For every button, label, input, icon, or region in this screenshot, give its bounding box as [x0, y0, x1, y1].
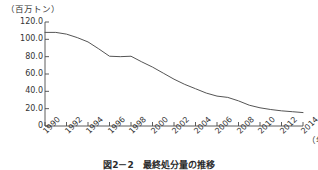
x-tick-label: 2006	[214, 116, 234, 136]
chart-figure: （百万トン） 020.040.060.080.0100.0120.0 19901…	[0, 0, 318, 170]
x-tick-label: 1992	[64, 116, 84, 136]
x-tick-label: 2012	[279, 116, 299, 136]
x-tick-label: 2008	[236, 116, 256, 136]
x-tick-label: 1990	[42, 116, 62, 136]
x-axis-unit-label: （年）	[307, 136, 318, 145]
x-tick-label: 2010	[257, 116, 277, 136]
x-tick-label: 2002	[171, 116, 191, 136]
x-tick-label: 1998	[128, 116, 148, 136]
x-axis-tick-labels: 1990199219941996199820002002200420062008…	[0, 0, 318, 170]
x-tick-label: 2014	[300, 116, 318, 136]
x-tick-label: 2000	[150, 116, 170, 136]
x-tick-label: 1996	[107, 116, 127, 136]
figure-caption: 図2－2 最終処分量の推移	[0, 160, 318, 170]
x-tick-label: 2004	[193, 116, 213, 136]
x-tick-label: 1994	[85, 116, 105, 136]
